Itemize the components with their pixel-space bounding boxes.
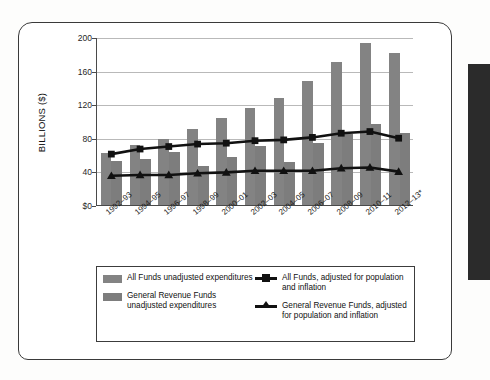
legend-item-label: All Funds, adjusted for population and i… (282, 273, 407, 293)
plot-wrapper (96, 38, 413, 206)
y-axis-tick-mark (92, 206, 96, 207)
marker-square (165, 143, 172, 150)
legend-item-all-funds-unadjusted: All Funds unadjusted expenditures (103, 273, 255, 283)
marker-square (194, 141, 201, 148)
legend-item-all-funds-adjusted: All Funds, adjusted for population and i… (255, 273, 407, 293)
chart-figure: BILLIONS ($) $04080120160200 1992–931994… (40, 28, 428, 346)
marker-square (223, 140, 230, 147)
y-axis-tick-label: 200 (78, 33, 92, 43)
marker-square (280, 137, 287, 144)
y-axis-tick-label: 120 (78, 100, 92, 110)
marker-square (252, 137, 259, 144)
legend-item-label: General Revenue Funds unadjusted expendi… (127, 291, 255, 311)
legend-item-grf-adjusted: General Revenue Funds, adjusted for popu… (255, 301, 407, 321)
marker-square (338, 130, 345, 137)
marker-square (108, 151, 115, 158)
marker-square (367, 128, 374, 135)
plot-area (96, 38, 413, 206)
line-series-layer (97, 38, 413, 205)
y-axis-tick-label: 80 (83, 134, 92, 144)
legend-item-label: All Funds unadjusted expenditures (127, 273, 253, 283)
legend-triangle-marker-icon (261, 301, 271, 308)
legend-item-grf-unadjusted: General Revenue Funds unadjusted expendi… (103, 291, 255, 311)
scanned-page-background: BILLIONS ($) $04080120160200 1992–931994… (0, 0, 490, 380)
legend-swatch-icon (103, 275, 122, 283)
y-axis-tick-label: 160 (78, 67, 92, 77)
legend-column-left: All Funds unadjusted expendituresGeneral… (103, 273, 255, 319)
legend-swatch-icon (103, 293, 122, 301)
legend-line-marker-icon (255, 301, 277, 312)
legend-column-right: All Funds, adjusted for population and i… (255, 273, 407, 329)
y-axis-tick-labels: $04080120160200 (40, 38, 92, 206)
legend-square-marker-icon (262, 274, 270, 282)
marker-square (395, 135, 402, 142)
y-axis-tick-label: $0 (83, 201, 92, 211)
legend-line-marker-icon (255, 273, 277, 284)
marker-square (309, 134, 316, 141)
y-axis-tick-label: 40 (83, 167, 92, 177)
page-edge-shadow (468, 64, 490, 280)
chart-legend: All Funds unadjusted expendituresGeneral… (96, 266, 415, 342)
marker-square (137, 146, 144, 153)
legend-item-label: General Revenue Funds, adjusted for popu… (282, 301, 407, 321)
x-axis-tick-labels: 1992–931994–951996–971998–992000–012002–… (96, 210, 413, 262)
